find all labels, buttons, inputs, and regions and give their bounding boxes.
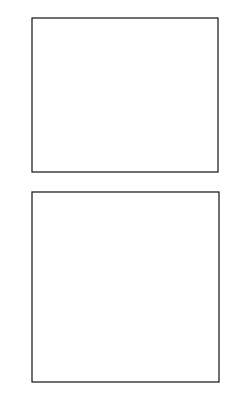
bottom-panel-a-si	[32, 192, 219, 382]
figure-caption-partial	[0, 404, 229, 414]
figure-canvas	[0, 0, 229, 414]
bottom-plot-frame	[32, 192, 219, 382]
top-plot-frame	[32, 18, 218, 172]
top-panel-a-ge	[32, 18, 218, 172]
